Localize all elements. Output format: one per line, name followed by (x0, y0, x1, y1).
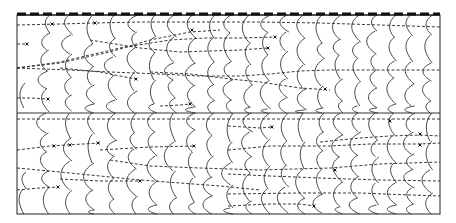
wavefront-arc (281, 51, 289, 79)
wavefront-arc (245, 43, 251, 65)
wavefront-arc (188, 38, 195, 63)
wavefront-arc (40, 133, 48, 152)
wavefront-arc (227, 185, 233, 208)
trajectory-dashed-line (228, 174, 440, 181)
wavefront-arc (370, 71, 377, 88)
wavefront-arc (131, 113, 137, 133)
wavefront-arc (352, 106, 358, 113)
wavefront-arc (426, 101, 431, 113)
wavefront-arc (407, 188, 413, 204)
wavefront-arc (426, 113, 431, 141)
wavefront-arc (349, 198, 359, 214)
wavefront-arc (280, 32, 286, 51)
trajectory-dashed-line (228, 204, 314, 206)
cross-marker-icon (189, 103, 192, 106)
wavefront-arc (65, 78, 71, 95)
wavefront-arc (203, 196, 212, 214)
wavefront-arc (369, 108, 378, 113)
wavefront-arc (168, 80, 175, 98)
wavefront-arc (245, 107, 251, 113)
wavefront-arc (107, 113, 115, 140)
wavefront-arc (334, 182, 343, 207)
wavefront-arc (297, 89, 306, 110)
wavefront-arc (149, 104, 157, 113)
wavefront-arc (297, 15, 305, 38)
wavefront-arc (208, 37, 214, 62)
wavefront-arc (223, 80, 232, 100)
wavefront-arc (368, 88, 377, 108)
wavefront-arc (280, 15, 289, 32)
wavefront-arc (372, 157, 379, 183)
wavefront-arc (88, 210, 94, 214)
wavefront-arc (423, 63, 431, 81)
wavefront-arc (333, 15, 341, 39)
wavefront-arc (371, 140, 378, 157)
trajectory-dashed-line (160, 104, 190, 106)
wavefront-arc (86, 190, 95, 210)
wavefront-arc (170, 198, 177, 214)
wavefront-arc (298, 113, 303, 142)
wavefront-arc (170, 113, 176, 142)
trajectory-dashed-line (17, 98, 48, 99)
wavefront-arc (65, 15, 73, 35)
wavefront-arc (406, 204, 413, 214)
trajectory-dashed-line (228, 126, 272, 128)
trajectory-dashed-line (228, 143, 440, 150)
wavefront-arc (367, 31, 377, 54)
wavefront-arc (110, 15, 114, 38)
wavefront-arc (262, 55, 270, 81)
wavefront-arc (279, 98, 286, 113)
wavefront-arc (148, 205, 157, 214)
wavefront-arc (371, 54, 376, 71)
wavefront-arc (316, 170, 321, 194)
wavefront-arc (246, 201, 252, 214)
wavefront-arc (333, 113, 343, 135)
cross-marker-icon (47, 98, 50, 101)
wavefront-arc (203, 177, 212, 196)
wavefront-arc (206, 113, 214, 136)
wavefront-arc (243, 173, 250, 201)
wavefront-arc (40, 152, 48, 171)
wavefront-arc (148, 113, 155, 132)
wavefront-arc (151, 15, 156, 37)
wavefront-arc (106, 100, 115, 113)
wavefront-arc (245, 157, 251, 173)
wavefront-arc (281, 141, 287, 165)
wavefront-arc (88, 113, 95, 134)
wavefront-arc (170, 171, 176, 198)
wavefront-arc (187, 130, 195, 152)
wavefront-arc (426, 193, 433, 214)
wavefront-arc (208, 101, 214, 113)
wavefront-arc (42, 89, 49, 112)
wavefront-arc (335, 79, 343, 101)
wavefront-arc (86, 85, 94, 104)
wavefront-arc (149, 181, 157, 205)
wavefront-arc (22, 172, 27, 189)
wavefront-arc (147, 156, 156, 181)
wavefront-arc (352, 15, 361, 42)
wavefront-arc (20, 83, 25, 108)
wavefront-arc (261, 189, 270, 214)
wavefront-arc (224, 62, 233, 80)
wavefront-arc (281, 113, 288, 141)
wavefront-arc (404, 170, 415, 188)
wavefront-arc (369, 113, 378, 140)
wavefront-arc (244, 85, 253, 107)
cross-marker-icon (139, 180, 142, 183)
wavefront-arc (128, 15, 138, 32)
wavefront-arc (387, 78, 396, 104)
wavefront-arc (88, 134, 92, 163)
wavefront-arc (422, 170, 431, 193)
wavefront-arc (84, 163, 94, 190)
wavefront-arc (65, 95, 71, 111)
wavefront-arc (226, 100, 231, 113)
wavefront-arc (42, 33, 50, 50)
wavefront-arc (42, 171, 49, 187)
wavefront-arc (107, 140, 117, 156)
wavefront-arc (263, 32, 269, 55)
wavefront-arc (279, 79, 288, 98)
cross-marker-icon (271, 126, 274, 129)
wavefront-arc (242, 15, 249, 43)
cross-marker-icon (193, 145, 196, 148)
wavefront-arc (38, 71, 48, 89)
